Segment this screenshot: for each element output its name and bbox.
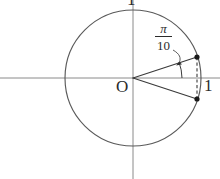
fraction-bar: [155, 36, 172, 37]
angle-numerator: π: [155, 22, 172, 36]
upper-point-marker: [194, 54, 199, 59]
figure-canvas: [0, 0, 220, 179]
upper-radius-segment: [133, 57, 197, 78]
angle-label-leader-curve: [173, 50, 180, 62]
angle-denominator: 10: [155, 38, 172, 52]
lower-point-marker: [194, 96, 199, 101]
angle-value-label: π 10: [155, 22, 172, 52]
lower-radius-segment: [133, 78, 197, 99]
x-unit-label: 1: [204, 77, 213, 94]
unit-circle-figure: O 1 1 π 10: [0, 0, 220, 179]
y-unit-label: 1: [127, 0, 136, 8]
origin-label: O: [116, 78, 128, 95]
